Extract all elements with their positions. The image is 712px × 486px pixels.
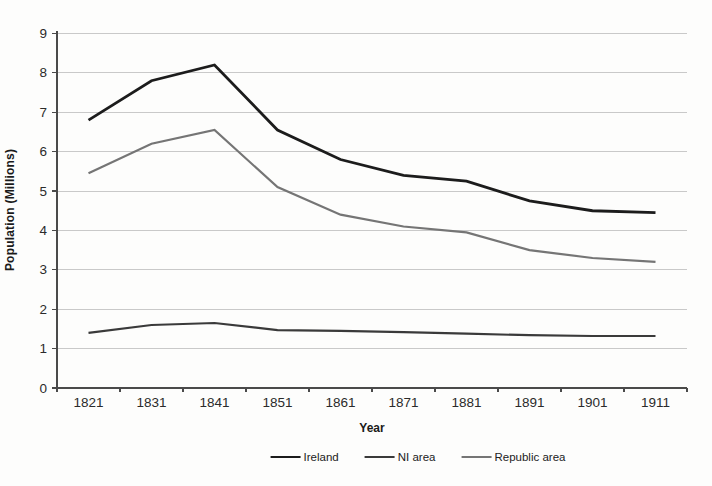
ni-area-line-swatch-icon	[365, 456, 395, 459]
legend-label-ni-area: NI area	[398, 451, 436, 463]
x-tick-label: 1901	[577, 395, 607, 410]
y-tick-label: 0	[39, 381, 47, 396]
line-chart-plot-area: 0123456789182118311841185118611871188118…	[0, 0, 712, 446]
x-tick-label: 1831	[136, 395, 166, 410]
y-tick-label: 3	[39, 262, 47, 277]
x-tick-label: 1851	[262, 395, 292, 410]
series-line-republic-area	[89, 130, 656, 262]
x-tick-label: 1841	[199, 395, 229, 410]
y-tick-label: 2	[39, 302, 47, 317]
republic-area-line-swatch-icon	[461, 456, 491, 459]
legend-label-ireland: Ireland	[304, 451, 339, 463]
y-tick-label: 8	[39, 65, 47, 80]
ireland-line-swatch-icon	[271, 456, 301, 459]
y-axis-title: Population (Millions)	[3, 105, 17, 315]
x-tick-label: 1871	[388, 395, 418, 410]
x-tick-label: 1881	[451, 395, 481, 410]
legend-item-republic-area: Republic area	[461, 451, 565, 463]
legend-item-ireland: Ireland	[271, 451, 339, 463]
x-tick-label: 1911	[641, 395, 670, 410]
series-line-ni-area	[89, 323, 656, 336]
y-tick-label: 6	[39, 144, 47, 159]
y-tick-label: 5	[39, 184, 47, 199]
y-tick-label: 7	[39, 105, 47, 120]
y-tick-label: 1	[39, 341, 47, 356]
legend-label-republic-area: Republic area	[494, 451, 565, 463]
x-tick-label: 1821	[73, 395, 103, 410]
x-tick-label: 1861	[325, 395, 355, 410]
y-tick-label: 4	[39, 223, 47, 238]
x-tick-label: 1891	[514, 395, 544, 410]
population-line-chart-figure: 0123456789182118311841185118611871188118…	[0, 0, 712, 486]
legend: Ireland NI area Republic area	[271, 451, 566, 463]
y-tick-label: 9	[39, 26, 47, 41]
legend-item-ni-area: NI area	[365, 451, 436, 463]
x-axis-title: Year	[57, 421, 687, 435]
